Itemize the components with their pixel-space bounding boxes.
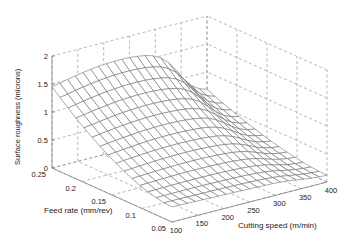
tick-label: 0.2: [66, 184, 76, 193]
tick-label: 400: [325, 186, 338, 195]
tick-label: 100: [170, 226, 183, 235]
tick-label: 0.25: [31, 170, 46, 179]
y-axis-label: Feed rate (mm/rev): [44, 206, 113, 215]
z-axis-label: Surface roughness (microns): [13, 68, 22, 165]
tick-label: 0.15: [91, 197, 106, 206]
tick-label: 0.1: [126, 211, 136, 220]
tick-label: 0.05: [151, 224, 166, 233]
x-axis-label: Cutting speed (m/min): [238, 221, 317, 230]
tick-label: 200: [221, 213, 234, 222]
tick-label: 150: [196, 219, 209, 228]
tick-label: 0.5: [38, 136, 48, 145]
tick-label: 1.5: [38, 80, 48, 89]
tick-label: 250: [247, 206, 260, 215]
tick-label: 300: [273, 199, 286, 208]
surface-plot: 00.511.521001502002503003504000.050.10.1…: [0, 0, 362, 246]
tick-label: 2: [44, 52, 48, 61]
tick-label: 1: [44, 108, 48, 117]
tick-label: 350: [299, 193, 312, 202]
mesh-surface: [52, 56, 327, 207]
